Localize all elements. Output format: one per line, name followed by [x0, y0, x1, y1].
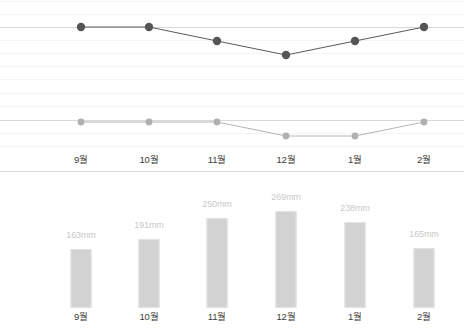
- bar[interactable]: [139, 239, 160, 308]
- line-chart-svg: [0, 0, 464, 172]
- dark-line-point: [282, 51, 290, 59]
- dark-line-point: [145, 23, 153, 31]
- x-axis-label: 2월: [417, 154, 431, 166]
- x-axis-label: 11월: [208, 154, 226, 166]
- bar-value-label: 165mm: [409, 229, 439, 240]
- chart-screenshot: 9월 10월 11월 12월 1월 2월 163mm 191mm 250mm 2…: [0, 0, 464, 330]
- light-line-point: [146, 119, 153, 126]
- x-axis-label: 1월: [348, 154, 362, 166]
- bar-chart-panel: 163mm 191mm 250mm 269mm 238mm 165mm: [0, 172, 464, 330]
- dark-line-point: [351, 37, 359, 45]
- line-chart-panel: 9월 10월 11월 12월 1월 2월: [0, 0, 464, 172]
- bar-value-label: 238mm: [340, 203, 370, 214]
- x-axis-label: 12월: [277, 154, 296, 166]
- bar[interactable]: [414, 248, 435, 308]
- x-axis-label: 10월: [140, 311, 159, 323]
- bar-value-label: 269mm: [271, 192, 301, 203]
- light-line-series: [78, 119, 428, 140]
- bar[interactable]: [71, 249, 92, 308]
- dark-line-point: [420, 23, 428, 31]
- light-line-point: [78, 119, 85, 126]
- x-axis-label: 2월: [417, 311, 431, 323]
- bar[interactable]: [345, 222, 366, 308]
- bar-value-label: 250mm: [202, 199, 232, 210]
- bar-value-label: 163mm: [66, 230, 96, 241]
- dark-line-point: [213, 37, 221, 45]
- x-axis-label: 9월: [74, 154, 88, 166]
- light-line-point: [421, 119, 428, 126]
- x-axis-label: 11월: [208, 311, 226, 323]
- dark-line-point: [77, 23, 85, 31]
- x-axis-label: 12월: [277, 311, 296, 323]
- bar[interactable]: [276, 211, 297, 308]
- bar[interactable]: [207, 218, 228, 308]
- x-axis-label: 9월: [74, 311, 88, 323]
- x-axis-label: 10월: [140, 154, 159, 166]
- bar-chart-x-axis: 9월 10월 11월 12월 1월 2월: [0, 311, 464, 327]
- light-line-point: [283, 133, 290, 140]
- light-line-point: [352, 133, 359, 140]
- line-chart-x-axis: 9월 10월 11월 12월 1월 2월: [0, 154, 464, 170]
- light-line-point: [214, 119, 221, 126]
- bar-value-label: 191mm: [134, 220, 164, 231]
- x-axis-label: 1월: [348, 311, 362, 323]
